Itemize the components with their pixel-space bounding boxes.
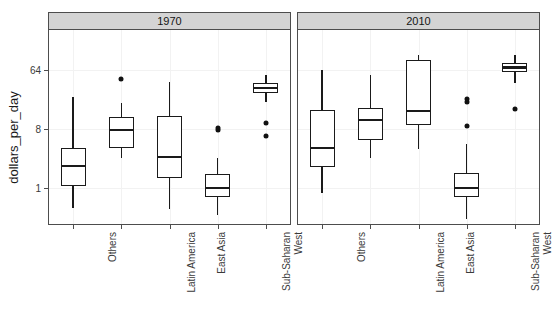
x-axis-tick-label: Others	[356, 232, 367, 262]
x-axis-tick-mark	[73, 225, 74, 229]
whisker-lower	[466, 197, 467, 218]
x-axis-tick-label: Others	[107, 232, 118, 262]
plot-area-2010	[298, 30, 539, 224]
outlier-point	[512, 107, 517, 112]
box	[310, 110, 335, 167]
y-axis-title: dollars_per_day	[2, 62, 24, 212]
gridline-vertical	[266, 30, 267, 224]
x-axis-tick-mark	[218, 225, 219, 229]
x-axis-tick-label: Latin America	[435, 232, 446, 293]
plot-area-1970	[49, 30, 290, 224]
median-line	[109, 129, 134, 131]
box	[454, 173, 479, 197]
whisker-lower	[321, 167, 322, 193]
x-axis-tick-mark	[121, 225, 122, 229]
whisker-upper	[72, 97, 73, 148]
x-axis-tick-label: East Asia	[464, 232, 475, 274]
x-axis-tick-mark	[419, 225, 420, 229]
box	[109, 117, 134, 148]
box	[406, 60, 431, 125]
median-line	[253, 87, 278, 89]
whisker-lower	[169, 178, 170, 209]
y-axis-title-text: dollars_per_day	[6, 91, 21, 184]
x-axis-tick-label: Latin America	[186, 232, 197, 293]
median-line	[358, 119, 383, 121]
box	[157, 116, 182, 178]
whisker-upper	[370, 75, 371, 108]
whisker-upper	[121, 103, 122, 117]
outlier-point	[215, 126, 220, 131]
median-line	[502, 66, 527, 68]
whisker-upper	[265, 75, 266, 83]
box	[205, 174, 230, 198]
x-axis-tick-mark	[515, 225, 516, 229]
whisker-upper	[514, 55, 515, 64]
whisker-lower	[370, 140, 371, 158]
outlier-point	[263, 133, 268, 138]
median-line	[157, 156, 182, 158]
y-axis: 1864	[22, 0, 48, 319]
y-axis-tick-label: 64	[30, 65, 41, 76]
x-axis-tick-label: Sub-Saharan	[530, 232, 541, 291]
facet-panel-2010: 2010	[297, 12, 540, 225]
facet-strip-label-1970: 1970	[49, 13, 290, 30]
whisker-lower	[514, 72, 515, 83]
x-axis-tick-mark	[170, 225, 171, 229]
median-line	[454, 187, 479, 189]
x-axis-tick-mark	[370, 225, 371, 229]
outlier-point	[263, 120, 268, 125]
x-axis-tick-mark	[322, 225, 323, 229]
median-line	[205, 187, 230, 189]
y-axis-tick-label: 1	[35, 183, 41, 194]
whisker-lower	[265, 93, 266, 101]
x-axis-tick-label: West	[542, 232, 553, 255]
whisker-lower	[217, 197, 218, 214]
whisker-lower	[121, 148, 122, 158]
box	[358, 108, 383, 141]
y-axis-tick-label: 8	[35, 124, 41, 135]
whisker-upper	[466, 144, 467, 173]
facet-panel-1970: 1970	[48, 12, 291, 225]
x-axis-tick-label: East Asia	[215, 232, 226, 274]
whisker-upper	[217, 158, 218, 174]
x-axis-tick-label: Sub-Saharan	[281, 232, 292, 291]
median-line	[406, 110, 431, 112]
outlier-point	[464, 97, 469, 102]
whisker-lower	[72, 186, 73, 208]
outlier-point	[464, 123, 469, 128]
median-line	[310, 147, 335, 149]
x-axis-tick-mark	[266, 225, 267, 229]
whisker-upper	[169, 82, 170, 116]
outlier-point	[119, 77, 124, 82]
whisker-upper	[321, 70, 322, 110]
x-axis-tick-mark	[467, 225, 468, 229]
x-axis-tick-label: West	[293, 232, 304, 255]
facet-strip-label-2010: 2010	[298, 13, 539, 30]
median-line	[61, 165, 86, 167]
whisker-lower	[418, 125, 419, 149]
box	[61, 148, 86, 186]
